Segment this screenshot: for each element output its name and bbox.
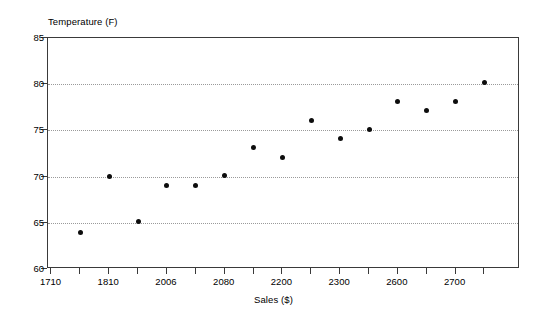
x-tick-0	[50, 268, 51, 274]
scatter-chart: Temperature (F) 606570758085 17101810200…	[0, 0, 547, 329]
data-point	[193, 183, 198, 188]
data-point	[453, 99, 458, 104]
gridline-y-80	[48, 84, 518, 85]
x-tick-label-1810: 1810	[78, 276, 138, 287]
x-tick-label-2080: 2080	[194, 276, 254, 287]
x-tick-5	[195, 268, 196, 274]
x-tick-label-2300: 2300	[309, 276, 369, 287]
data-point	[424, 108, 429, 113]
x-tick-4	[166, 268, 167, 274]
data-point	[280, 155, 285, 160]
data-point	[309, 118, 314, 123]
x-tick-label-2200: 2200	[251, 276, 311, 287]
x-tick-3	[137, 268, 138, 274]
x-tick-13	[426, 268, 427, 274]
x-tick-label-2006: 2006	[136, 276, 196, 287]
x-tick-label-2600: 2600	[367, 276, 427, 287]
x-tick-7	[253, 268, 254, 274]
x-tick-label-2700: 2700	[425, 276, 485, 287]
x-tick-14	[455, 268, 456, 274]
data-point	[338, 136, 343, 141]
gridline-y-75	[48, 130, 518, 131]
y-tick-label-70: 70	[9, 170, 47, 181]
x-tick-12	[397, 268, 398, 274]
gridline-y-65	[48, 223, 518, 224]
y-tick-label-65: 65	[9, 216, 47, 227]
x-tick-8	[281, 268, 282, 274]
y-tick-label-85: 85	[9, 32, 47, 43]
y-tick-label-75: 75	[9, 124, 47, 135]
x-axis-title: Sales ($)	[0, 294, 547, 305]
y-axis-title: Temperature (F)	[48, 16, 118, 27]
x-tick-2	[108, 268, 109, 274]
data-point	[482, 80, 487, 85]
y-tick-label-80: 80	[9, 78, 47, 89]
x-tick-15	[483, 268, 484, 274]
data-point	[136, 219, 141, 224]
x-tick-11	[368, 268, 369, 274]
plot-area	[47, 37, 519, 268]
gridline-y-70	[48, 177, 518, 178]
x-tick-6	[224, 268, 225, 274]
data-point	[251, 145, 256, 150]
data-point	[164, 183, 169, 188]
data-point	[107, 174, 112, 179]
x-tick-1	[79, 268, 80, 274]
data-point	[78, 230, 83, 235]
x-tick-label-1710: 1710	[20, 276, 80, 287]
data-point	[367, 127, 372, 132]
x-tick-9	[310, 268, 311, 274]
data-point	[395, 99, 400, 104]
y-tick-label-60: 60	[9, 263, 47, 274]
x-tick-10	[339, 268, 340, 274]
